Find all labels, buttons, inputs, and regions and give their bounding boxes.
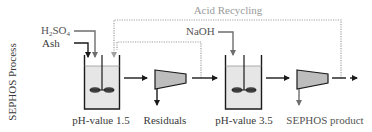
base-feed-arrow (218, 32, 233, 55)
acid-recycle-label: Acid Recycling (194, 4, 263, 16)
side-label: SEPHOS Process (6, 43, 18, 120)
acid-input-label: H2SO4 (41, 24, 71, 38)
ash-feed-arrow (74, 43, 88, 57)
base-input-label: NaOH (186, 25, 215, 37)
acid-feed-arrow (74, 31, 95, 57)
reactor-tank-1 (85, 55, 120, 109)
separator-2 (297, 70, 328, 89)
tank-2-label: pH-value 3.5 (215, 114, 273, 126)
reactor-tank-2 (226, 55, 262, 109)
product-label: SEPHOS product (286, 114, 363, 126)
separator-1 (155, 70, 186, 89)
ash-input-label: Ash (42, 37, 60, 49)
tank-1-label: pH-value 1.5 (72, 114, 130, 126)
residuals-label: Residuals (144, 114, 187, 126)
sephos-process-diagram: SEPHOS Process H2SO4 Ash Acid Recycling … (0, 0, 372, 132)
